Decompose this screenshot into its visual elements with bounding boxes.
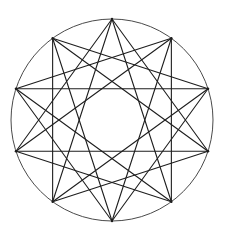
vertex-0 <box>111 18 113 20</box>
circumscribed-circle <box>11 19 213 221</box>
chord-step4-5-9 <box>53 38 112 221</box>
chord-step3-0-3 <box>112 19 208 151</box>
vertices-group <box>15 18 210 222</box>
chord-step3-8-1 <box>16 38 171 89</box>
vertex-7 <box>15 150 17 152</box>
vertex-6 <box>51 201 53 203</box>
chord-step4-4-8 <box>16 89 171 202</box>
star-polygon-diagram <box>0 0 225 241</box>
vertex-5 <box>111 220 113 222</box>
chord-step3-9-2 <box>53 38 208 89</box>
chord-step4-9-3 <box>53 38 208 151</box>
chord-step3-4-7 <box>16 151 171 202</box>
chords-group <box>16 19 208 221</box>
vertex-2 <box>207 88 209 90</box>
chord-step4-1-5 <box>112 38 171 221</box>
chord-step3-5-8 <box>16 89 112 221</box>
chord-step3-3-6 <box>53 151 208 202</box>
chord-step4-0-4 <box>112 19 171 202</box>
chord-step3-2-5 <box>112 89 208 221</box>
chord-step3-7-0 <box>16 19 112 151</box>
vertex-4 <box>170 201 172 203</box>
vertex-1 <box>170 37 172 39</box>
vertex-3 <box>207 150 209 152</box>
chord-step4-6-0 <box>53 19 112 202</box>
chord-step4-2-6 <box>53 89 208 202</box>
vertex-8 <box>15 88 17 90</box>
vertex-9 <box>51 37 53 39</box>
chord-step4-7-1 <box>16 38 171 151</box>
